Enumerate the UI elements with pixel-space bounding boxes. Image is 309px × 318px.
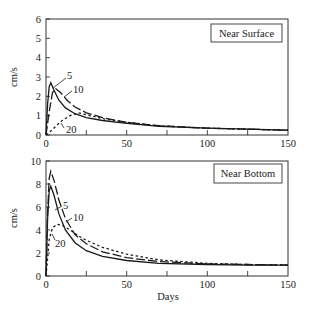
bottom-y-axis-label: cm/s [8,208,19,228]
top-y-axis-label: cm/s [8,67,19,87]
bottom-curve-label-10: 10 [73,212,84,223]
bottom-y-tick-label: 8 [36,179,41,190]
top-y-tick-label: 4 [36,52,42,63]
bottom-x-tick-label: 0 [43,279,48,290]
bottom-y-tick-label: 6 [36,202,41,213]
bottom-curve-label-20: 20 [55,238,66,249]
bottom-x-tick-label: 100 [199,279,215,290]
top-y-tick-label: 6 [36,14,41,25]
top-x-tick-label: 100 [199,138,215,149]
top-label-5-leader [53,78,66,88]
top-curve-10 [46,89,288,135]
bottom-y-tick-label: 4 [36,225,42,236]
top-label-10-leader [64,91,72,97]
near-surface-panel: 0123456 050100150 cm/s Near Surface 5 10… [8,14,296,150]
top-y-tick-label: 3 [36,72,41,83]
bottom-y-tick-label: 0 [36,271,41,282]
bottom-curve-label-5: 5 [63,200,68,211]
bottom-label-5-leader [55,206,62,210]
bottom-x-axis: 050100150 [43,271,296,290]
top-y-tick-label: 5 [36,33,41,44]
bottom-y-tick-label: 10 [31,156,42,167]
top-curve-label-20: 20 [66,124,77,135]
bottom-curves [46,171,288,276]
bottom-y-tick-label: 2 [36,248,41,259]
top-y-tick-label: 0 [36,130,41,141]
top-curve-label-5: 5 [67,70,72,81]
bottom-panel-title: Near Bottom [221,168,276,179]
top-x-axis: 050100150 [43,130,296,149]
top-panel-title: Near Surface [219,28,274,39]
bottom-x-tick-label: 150 [280,279,296,290]
bottom-curve-20 [46,224,288,276]
near-bottom-panel: 0246810 050100150 cm/s Days Near Bottom … [8,156,296,303]
top-y-tick-label: 1 [36,110,41,121]
top-label-20-leader [61,123,64,128]
top-curve-label-10: 10 [73,84,84,95]
figure: 0123456 050100150 cm/s Near Surface 5 10… [0,0,309,318]
top-x-tick-label: 150 [280,138,296,149]
bottom-x-tick-label: 50 [121,279,132,290]
bottom-x-axis-label: Days [157,291,179,302]
top-x-tick-label: 0 [43,138,48,149]
top-x-tick-label: 50 [121,138,132,149]
top-y-tick-label: 2 [36,91,41,102]
